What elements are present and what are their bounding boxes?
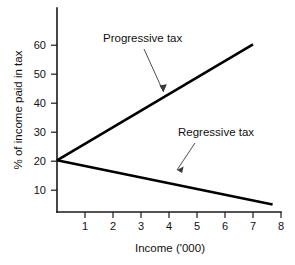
leader-arrowhead-regressive bbox=[177, 167, 184, 173]
annotation-label-progressive: Progressive tax bbox=[103, 32, 183, 44]
leader-line-regressive bbox=[177, 143, 195, 170]
y-tick-group: 10 20 30 40 50 60 bbox=[34, 39, 57, 196]
x-tick-label: 4 bbox=[166, 220, 172, 232]
x-tick-label: 6 bbox=[222, 220, 228, 232]
chart-canvas: 10 20 30 40 50 60 1 2 3 4 5 6 7 8 bbox=[0, 0, 295, 265]
y-tick-label: 50 bbox=[34, 68, 46, 80]
annotation-leader-progressive bbox=[144, 49, 167, 92]
series-line-progressive-tax bbox=[57, 44, 253, 160]
x-tick-label: 2 bbox=[110, 220, 116, 232]
annotation-leader-regressive bbox=[177, 143, 195, 173]
y-axis-title: % of income paid in tax bbox=[12, 50, 24, 169]
y-tick-label: 20 bbox=[34, 155, 46, 167]
annotation-label-regressive: Regressive tax bbox=[178, 126, 254, 138]
x-axis-title: Income ('000) bbox=[135, 242, 205, 254]
x-tick-label: 3 bbox=[138, 220, 144, 232]
x-tick-label: 1 bbox=[82, 220, 88, 232]
x-tick-group: 1 2 3 4 5 6 7 8 bbox=[82, 212, 284, 232]
x-tick-label: 5 bbox=[194, 220, 200, 232]
x-tick-label: 7 bbox=[250, 220, 256, 232]
y-tick-label: 10 bbox=[34, 184, 46, 196]
leader-arrowhead-progressive bbox=[159, 84, 167, 92]
y-tick-label: 30 bbox=[34, 126, 46, 138]
series-line-regressive-tax bbox=[57, 160, 273, 204]
tax-incidence-chart: 10 20 30 40 50 60 1 2 3 4 5 6 7 8 bbox=[0, 0, 295, 265]
y-tick-label: 40 bbox=[34, 97, 46, 109]
x-tick-label: 8 bbox=[278, 220, 284, 232]
y-tick-label: 60 bbox=[34, 39, 46, 51]
series-group bbox=[57, 44, 273, 204]
